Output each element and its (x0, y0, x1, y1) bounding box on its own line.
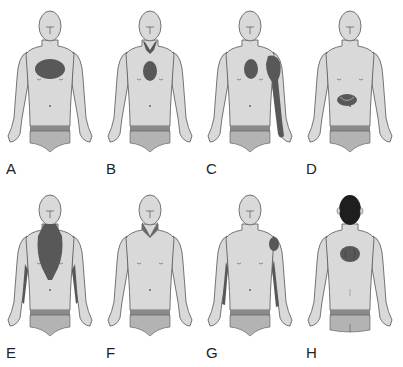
body-front-figure (200, 184, 300, 354)
panel-f: F (100, 184, 200, 367)
panel-g: G (200, 184, 300, 367)
panel-h: H (300, 184, 400, 367)
panel-label: G (206, 344, 218, 361)
panel-label: C (206, 160, 217, 177)
panel-label: D (306, 160, 317, 177)
pain-region-chest (35, 59, 65, 79)
body-front-figure (100, 184, 200, 354)
pain-region-sternum (143, 61, 157, 81)
panel-label: F (106, 344, 115, 361)
pain-region-epigastric (337, 94, 357, 106)
panel-b: B (100, 0, 200, 183)
body-front-figure (300, 0, 400, 170)
panel-a: A (0, 0, 100, 183)
panel-label: H (306, 344, 317, 361)
body-front-figure (0, 0, 100, 170)
body-back-figure (300, 184, 400, 354)
panel-label: A (6, 160, 16, 177)
panel-label: B (106, 160, 116, 177)
panel-e: E (0, 184, 100, 367)
panel-c: C (200, 0, 300, 183)
body-front-figure (100, 0, 200, 170)
body-front-figure (200, 0, 300, 170)
pain-region-left-chest (244, 59, 258, 79)
body-front-figure (0, 184, 100, 354)
panel-d: D (300, 0, 400, 183)
pain-region-left-shoulder (269, 237, 279, 251)
pain-region-interscapular (340, 246, 360, 262)
panel-label: E (6, 344, 16, 361)
